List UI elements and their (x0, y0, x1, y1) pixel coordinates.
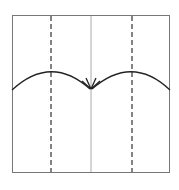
origami-diagram (0, 0, 179, 190)
right-fold-arrow (92, 72, 170, 90)
